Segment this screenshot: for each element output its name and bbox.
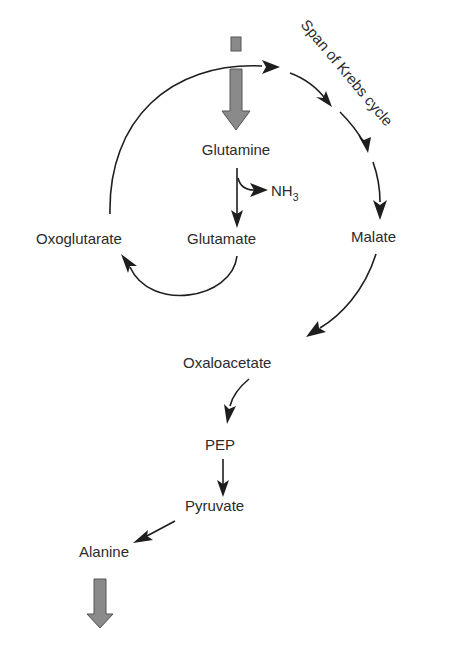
arrowhead-to-alanine bbox=[133, 530, 153, 543]
node-nh3: NH3 bbox=[271, 182, 299, 203]
arrowhead-to-malate bbox=[373, 200, 387, 220]
krebs-segment-4 bbox=[373, 162, 380, 202]
pyruvate-to-alanine-line bbox=[145, 521, 175, 537]
input-block-arrow bbox=[222, 69, 250, 130]
nh3-base: NH bbox=[271, 182, 293, 199]
node-malate: Malate bbox=[351, 228, 396, 245]
arrowhead-krebs-2 bbox=[316, 91, 332, 107]
pathway-diagram: Span of Krebs cycle Glutamine NH3 Oxoglu… bbox=[0, 0, 450, 654]
input-stub-square bbox=[231, 37, 241, 51]
oxaloacetate-to-pep-curve bbox=[230, 379, 249, 406]
node-pyruvate: Pyruvate bbox=[185, 497, 244, 514]
malate-to-oxaloacetate-curve bbox=[320, 254, 376, 328]
arrowhead-to-pep bbox=[224, 404, 236, 424]
krebs-cycle-label: Span of Krebs cycle bbox=[298, 16, 397, 129]
node-glutamate: Glutamate bbox=[187, 230, 256, 247]
node-pep: PEP bbox=[205, 436, 235, 453]
output-block-arrow bbox=[87, 579, 113, 628]
node-oxoglutarate: Oxoglutarate bbox=[36, 230, 122, 247]
glutamate-to-oxoglutarate-curve bbox=[130, 256, 237, 295]
arrowhead-to-oxaloacetate bbox=[306, 321, 326, 337]
arrowhead-to-oxoglutarate bbox=[121, 254, 137, 273]
node-oxaloacetate: Oxaloacetate bbox=[183, 354, 271, 371]
nh3-subscript: 3 bbox=[293, 191, 299, 203]
node-glutamine: Glutamine bbox=[202, 141, 270, 158]
arrowhead-krebs-3 bbox=[358, 135, 371, 153]
arrowhead-krebs-1 bbox=[262, 60, 280, 74]
node-alanine: Alanine bbox=[79, 543, 129, 560]
krebs-segment-2 bbox=[290, 73, 326, 100]
